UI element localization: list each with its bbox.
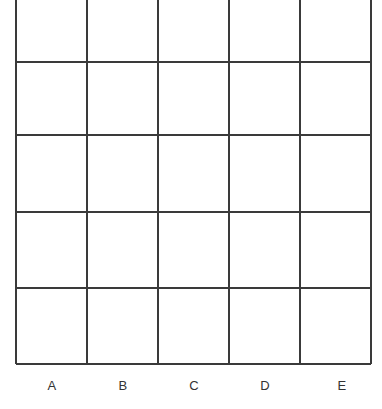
- grid-cell: [16, 62, 87, 135]
- grid-cells-group: [16, 0, 371, 364]
- grid-cell: [300, 212, 371, 288]
- grid-cell: [16, 135, 87, 212]
- grid-cell: [87, 212, 158, 288]
- grid-cell: [87, 62, 158, 135]
- grid-cell: [229, 135, 300, 212]
- grid-cell: [229, 62, 300, 135]
- grid-cell: [16, 0, 87, 62]
- grid-cell: [87, 135, 158, 212]
- grid-cell: [229, 288, 300, 364]
- grid-cell: [158, 0, 229, 62]
- grid-cell: [300, 0, 371, 62]
- grid-cell: [87, 0, 158, 62]
- grid-figure: [0, 0, 382, 409]
- grid-cell: [300, 288, 371, 364]
- screenshot-canvas: A B C D E: [0, 0, 382, 409]
- grid-cell: [16, 212, 87, 288]
- grid-cell: [158, 135, 229, 212]
- grid-cell: [158, 212, 229, 288]
- grid-cell: [229, 212, 300, 288]
- grid-cell: [229, 0, 300, 62]
- grid-cell: [158, 288, 229, 364]
- grid-cell: [87, 288, 158, 364]
- grid-cell: [300, 62, 371, 135]
- grid-svg: [0, 0, 382, 409]
- grid-cell: [300, 135, 371, 212]
- grid-cell: [16, 288, 87, 364]
- grid-cell: [158, 62, 229, 135]
